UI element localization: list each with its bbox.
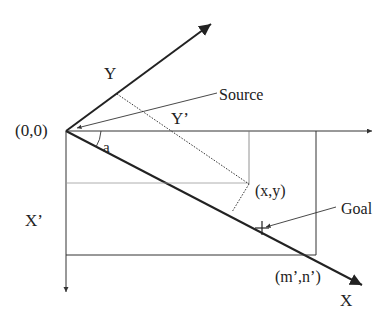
goal-leader-arrow <box>266 207 336 227</box>
dotted-line-to-x-axis <box>232 184 249 212</box>
source-label: Source <box>219 86 263 103</box>
goal-label: Goal <box>341 200 373 217</box>
point-label: (x,y) <box>255 182 286 200</box>
y-axis-line <box>66 24 211 131</box>
goal-marker-icon <box>255 221 269 235</box>
angle-arc <box>96 131 101 147</box>
x-prime-label: X’ <box>25 211 43 230</box>
y-prime-label: Y’ <box>171 109 189 128</box>
x-axis-label: X <box>340 291 352 310</box>
dotted-line-to-y-axis <box>117 94 249 184</box>
source-leader-arrow <box>77 93 217 128</box>
coordinate-diagram: Y Source Y’ (0,0) a (x,y) Goal X’ (m’,n’… <box>0 0 386 314</box>
x-axis-line <box>66 131 362 285</box>
y-axis-label: Y <box>104 64 116 83</box>
angle-label: a <box>103 139 110 155</box>
corner-label: (m’,n’) <box>275 268 321 286</box>
origin-label: (0,0) <box>15 121 48 140</box>
